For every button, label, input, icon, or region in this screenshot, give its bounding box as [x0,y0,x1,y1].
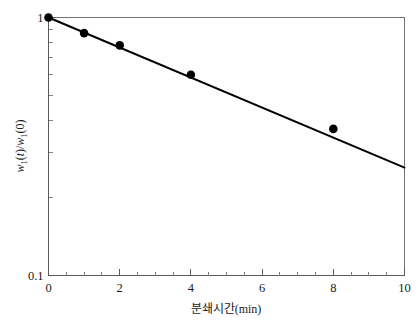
data-point [329,125,338,134]
x-tick-label: 4 [188,281,195,295]
y-title-open-0: (0) [13,119,27,133]
y-title-w2: w [13,138,27,146]
semilog-decay-chart: 0246810 10.1 분쇄시간(min) w1(t)/w1(0) [0,0,419,324]
y-axis-minor-ticks [49,29,53,198]
fit-line [49,18,405,168]
data-point [44,13,53,22]
x-tick-label: 0 [45,281,51,295]
x-tick-label: 10 [398,281,411,295]
x-axis-tick-labels: 0246810 [45,281,410,295]
y-axis-tick-labels: 10.1 [28,11,44,283]
y-title-w1: w [13,165,27,173]
y-axis-major-ticks [49,18,56,276]
x-axis-minor-ticks [66,272,386,276]
svg-text:w1(t)/w1(0): w1(t)/w1(0) [13,119,29,172]
x-axis-title: 분쇄시간(min) [191,302,262,316]
data-point [80,29,89,38]
y-tick-label: 0.1 [28,269,44,283]
plot-frame [49,18,405,276]
x-tick-label: 8 [330,281,336,295]
x-tick-label: 6 [259,281,265,295]
chart-figure: 0246810 10.1 분쇄시간(min) w1(t)/w1(0) [0,0,419,324]
y-tick-label: 1 [37,11,43,25]
y-axis-title: w1(t)/w1(0) [13,119,29,172]
x-tick-label: 2 [117,281,123,295]
data-point [187,70,196,79]
data-point [115,41,124,50]
data-point-series [44,13,337,133]
